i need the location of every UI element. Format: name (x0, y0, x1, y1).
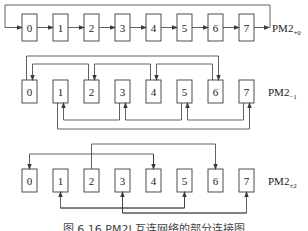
node-label: 6 (213, 22, 219, 34)
node-label: 5 (182, 22, 188, 34)
node-label: 5 (182, 86, 188, 98)
node-label: 1 (58, 22, 64, 34)
row-pm2-plus0: 01234567 (5, 5, 270, 41)
node-box-3: 3 (115, 80, 130, 103)
node-box-5: 5 (177, 169, 192, 192)
edge-0-to-6 (27, 56, 219, 80)
node-box-7: 7 (239, 169, 254, 192)
node-box-7: 7 (239, 14, 254, 41)
node-label: 0 (27, 175, 33, 187)
node-box-2: 2 (84, 14, 99, 41)
edge-1-to-7 (58, 103, 250, 129)
node-label: 6 (213, 86, 219, 98)
node-box-1: 1 (53, 14, 68, 41)
node-label: 0 (27, 22, 33, 34)
node-label: 5 (182, 175, 188, 187)
node-box-6: 6 (208, 169, 223, 192)
node-box-3: 3 (115, 14, 130, 41)
node-label: 2 (89, 86, 95, 98)
edge-2-to-0 (33, 64, 89, 80)
node-box-5: 5 (177, 14, 192, 41)
node-box-4: 4 (146, 80, 161, 103)
row-pm2-plusminus2: 01234567 (22, 144, 254, 213)
node-label: 7 (244, 175, 250, 187)
edge-7-to-5 (188, 103, 244, 120)
node-label: 3 (120, 175, 126, 187)
node-box-2: 2 (84, 169, 99, 192)
node-label: 6 (213, 175, 219, 187)
node-label: 2 (89, 22, 95, 34)
node-box-6: 6 (208, 80, 223, 103)
node-label: 0 (27, 86, 33, 98)
node-box-3: 3 (115, 169, 130, 192)
edge-3-to-1 (64, 103, 120, 120)
node-label: 3 (120, 22, 126, 34)
node-box-0: 0 (22, 80, 37, 103)
edge-6-to-4 (157, 64, 213, 80)
edge-4-to-2 (95, 64, 151, 80)
edge-5-to-3 (126, 103, 182, 120)
node-label: 4 (151, 86, 157, 98)
row-label-pm2-plus0: PM2+0 (272, 22, 301, 37)
row-label-pm2-plusminus2: PM2±2 (268, 175, 297, 190)
node-box-6: 6 (208, 14, 223, 41)
node-label: 2 (89, 175, 95, 187)
node-box-1: 1 (53, 80, 68, 103)
figure-caption: 图 6.16 PM2I 互连网络的部分连接图 (63, 222, 245, 231)
node-label: 3 (120, 86, 126, 98)
row-label-pm2-minus1: PM2−1 (268, 86, 297, 101)
node-box-0: 0 (22, 14, 37, 41)
node-box-1: 1 (53, 169, 68, 192)
pm2i-diagram: 01234567 01234567 01234567 PM2+0 PM2−1 P… (0, 0, 308, 231)
node-box-4: 4 (146, 169, 161, 192)
row-pm2-minus1: 01234567 (22, 56, 254, 129)
node-box-0: 0 (22, 169, 37, 192)
node-label: 1 (58, 175, 64, 187)
node-label: 7 (244, 86, 250, 98)
node-label: 4 (151, 175, 157, 187)
node-box-7: 7 (239, 80, 254, 103)
node-label: 7 (244, 22, 250, 34)
node-box-5: 5 (177, 80, 192, 103)
node-box-4: 4 (146, 14, 161, 41)
node-label: 4 (151, 22, 157, 34)
edge-wrap-to-0 (5, 5, 270, 28)
node-box-2: 2 (84, 80, 99, 103)
node-label: 1 (58, 86, 64, 98)
